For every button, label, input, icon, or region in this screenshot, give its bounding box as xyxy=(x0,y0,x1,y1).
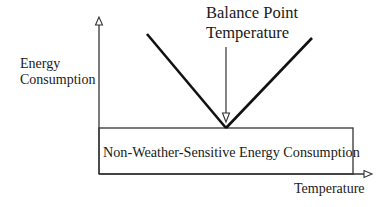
x-axis-label: Temperature xyxy=(294,181,365,197)
heating-slope-line xyxy=(147,34,226,128)
y-axis-label-line1: Energy xyxy=(20,56,95,72)
baseload-label: Non-Weather-Sensitive Energy Consumption xyxy=(103,144,360,160)
x-axis-arrowhead xyxy=(364,171,372,178)
cooling-slope-line xyxy=(226,38,312,128)
y-axis-label-line2: Consumption xyxy=(20,72,95,88)
balance-point-label-line2: Temperature xyxy=(206,23,298,43)
y-axis-arrowhead xyxy=(96,17,103,25)
balance-point-label-line1: Balance Point xyxy=(206,3,298,23)
balance-point-arrowhead xyxy=(223,113,230,122)
balance-point-label: Balance Point Temperature xyxy=(206,3,298,43)
y-axis-label: Energy Consumption xyxy=(20,56,95,88)
diagram-canvas xyxy=(0,0,390,207)
